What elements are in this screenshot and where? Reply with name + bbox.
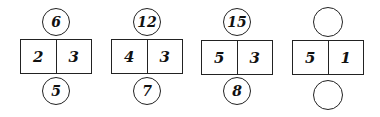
left-cell: 4 <box>112 40 147 73</box>
right-cell: 1 <box>328 41 364 74</box>
left-cell: 5 <box>293 41 328 74</box>
bottom-circle: 5 <box>42 77 70 105</box>
top-circle: 6 <box>42 8 70 36</box>
puzzle-group-3: 15 5 3 8 <box>201 0 275 117</box>
left-cell: 2 <box>21 40 56 73</box>
top-circle: 15 <box>223 8 251 36</box>
right-cell: 3 <box>237 41 273 74</box>
number-box: 5 3 <box>201 40 273 75</box>
bottom-circle: 8 <box>223 77 251 105</box>
puzzle-group-1: 6 2 3 5 <box>20 0 94 117</box>
blank-top-circle <box>313 7 343 37</box>
blank-bottom-circle <box>313 80 343 110</box>
number-box: 5 1 <box>292 40 364 75</box>
right-cell: 3 <box>147 40 183 73</box>
number-box: 4 3 <box>111 39 183 74</box>
puzzle-group-2: 12 4 3 7 <box>111 0 185 117</box>
number-box: 2 3 <box>20 39 92 74</box>
top-circle: 12 <box>133 8 161 36</box>
bottom-circle: 7 <box>133 77 161 105</box>
left-cell: 5 <box>202 41 237 74</box>
puzzle-group-4: 5 1 <box>292 0 366 117</box>
right-cell: 3 <box>56 40 92 73</box>
